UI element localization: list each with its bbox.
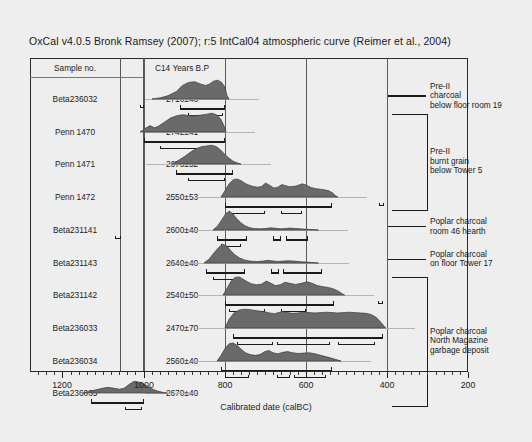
annotation-line: room 46 hearth [430, 227, 487, 237]
table-header-rule [30, 77, 143, 78]
axis-tick-major-400 [387, 372, 388, 378]
axis-tick-minor [103, 372, 104, 375]
range-bar-end-cap [321, 269, 322, 274]
range-bar-95 [176, 173, 233, 175]
range-bar-end-cap [176, 170, 177, 175]
axis-tick-minor [160, 372, 161, 375]
x-axis-label: Calibrated date (calBC) [0, 402, 532, 412]
range-bar-end-cap [224, 105, 225, 110]
annotation-line: garbage deposit [430, 346, 489, 356]
range-bar-95 [225, 206, 332, 208]
range-bar-end-cap [206, 269, 207, 274]
annotation-line: Pre-II [430, 147, 482, 157]
axis-tick-minor [436, 372, 437, 375]
axis-tick-minor [208, 372, 209, 375]
annotation-line: burnt grain [430, 157, 482, 167]
axis-tick-minor [200, 372, 201, 375]
probability-distribution-curve [204, 243, 318, 263]
axis-tick-label-1000: 1000 [122, 380, 166, 390]
axis-tick-minor [95, 372, 96, 375]
minor-probability-bracket [379, 203, 384, 206]
axis-tick-minor [257, 372, 258, 375]
axis-tick-label-600: 600 [284, 380, 328, 390]
axis-tick-major-600 [306, 372, 307, 378]
range-bar-95 [286, 239, 308, 241]
annotation-line: below Tower 5 [430, 166, 482, 176]
axis-tick-minor [290, 372, 291, 375]
axis-tick-minor [322, 372, 323, 375]
axis-tick-minor [460, 372, 461, 375]
annotation-leader-line [388, 259, 426, 261]
cell-sample-no: Beta236032 [32, 94, 118, 104]
axis-tick-minor [363, 372, 364, 375]
cell-sample-no: Beta236034 [32, 356, 118, 366]
axis-tick-minor [152, 372, 153, 375]
cell-sample-no: Beta231143 [32, 258, 118, 268]
axis-tick-minor [338, 372, 339, 375]
cell-sample-no: Penn 1470 [32, 127, 118, 137]
annotation-leader-line [388, 226, 426, 228]
annotation-line: Pre-II [430, 82, 502, 92]
range-bar-95 [283, 272, 322, 274]
range-bar-end-cap [286, 236, 287, 241]
range-bar-end-cap [217, 236, 218, 241]
range-bar-end-cap [232, 170, 233, 175]
range-bar-68 [225, 375, 249, 378]
range-bar-end-cap [280, 236, 281, 241]
range-bar-68 [294, 375, 326, 378]
annotation-poplar-room-46: Poplar charcoalroom 46 hearth [430, 217, 487, 236]
probability-distribution-curve [140, 112, 226, 132]
annotation-line: on floor Tower 17 [430, 259, 493, 269]
axis-tick-major-800 [225, 372, 226, 378]
range-bar-95 [233, 337, 383, 339]
axis-tick-minor [371, 372, 372, 375]
probability-distribution-curve [172, 144, 241, 164]
axis-tick-minor [54, 372, 55, 375]
range-bar-end-cap [271, 269, 272, 274]
axis-tick-minor [346, 372, 347, 375]
range-bar-end-cap [273, 236, 274, 241]
range-bar-end-cap [307, 236, 308, 241]
axis-tick-label-800: 800 [203, 380, 247, 390]
range-bar-95 [144, 141, 225, 143]
probability-distribution-curve [221, 177, 338, 197]
annotation-line: charcoal [430, 91, 502, 101]
annotation-group-bracket-pre-ii-burnt-grain [392, 114, 428, 211]
cell-sample-no: Beta231141 [32, 225, 118, 235]
axis-tick-minor [354, 372, 355, 375]
probability-distribution-curve [213, 210, 318, 230]
column-header-c14-years: C14 Years B.P [145, 63, 219, 73]
cell-sample-no: Beta231142 [32, 290, 118, 300]
axis-tick-minor [87, 372, 88, 375]
range-bar-end-cap [244, 269, 245, 274]
minor-probability-bracket [115, 236, 121, 239]
axis-tick-minor [79, 372, 80, 375]
range-bar-end-cap [283, 269, 284, 274]
axis-tick-major-1000 [144, 372, 145, 378]
range-bar-68 [338, 342, 375, 345]
axis-tick-minor [265, 372, 266, 375]
range-bar-95 [180, 108, 225, 110]
axis-tick-minor [241, 372, 242, 375]
range-bar-end-cap [278, 269, 279, 274]
axis-tick-minor [314, 372, 315, 375]
annotation-poplar-tower-17: Poplar charcoalon floor Tower 17 [430, 250, 493, 269]
axis-tick-minor [217, 372, 218, 375]
axis-tick-minor [38, 372, 39, 375]
axis-tick-minor [427, 372, 428, 375]
column-header-sample-no: Sample no. [32, 63, 118, 73]
range-bar-end-cap [224, 138, 225, 143]
axis-tick-major-1200 [62, 372, 63, 378]
annotation-line: Poplar charcoal [430, 327, 489, 337]
axis-tick-minor [273, 372, 274, 375]
annotation-pre-ii-charcoal: Pre-IIcharcoalbelow floor room 19 [430, 82, 502, 111]
axis-tick-minor [403, 372, 404, 375]
annotation-line: Poplar charcoal [430, 217, 487, 227]
range-bar-95 [217, 239, 247, 241]
axis-tick-minor [111, 372, 112, 375]
axis-tick-minor [411, 372, 412, 375]
axis-tick-minor [168, 372, 169, 375]
annotation-line: below floor room 19 [430, 101, 502, 111]
range-bar-end-cap [331, 203, 332, 208]
range-bar-end-cap [382, 334, 383, 339]
